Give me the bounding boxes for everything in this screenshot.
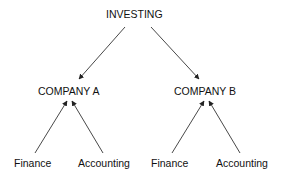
- edge-finance-a-to-company-a: [35, 101, 67, 153]
- node-investing: INVESTING: [106, 8, 163, 20]
- node-accounting-a: Accounting: [78, 157, 130, 169]
- node-company-a: COMPANY A: [38, 85, 99, 97]
- edge-accounting-b-to-company-b: [209, 101, 240, 153]
- edge-investing-to-company-b: [151, 27, 199, 79]
- edge-investing-to-company-a: [79, 27, 125, 79]
- edge-finance-b-to-company-b: [172, 101, 204, 153]
- node-company-b: COMPANY B: [174, 85, 236, 97]
- node-finance-a: Finance: [14, 157, 51, 169]
- node-accounting-b: Accounting: [216, 157, 268, 169]
- node-finance-b: Finance: [151, 157, 188, 169]
- edge-accounting-a-to-company-a: [72, 101, 103, 153]
